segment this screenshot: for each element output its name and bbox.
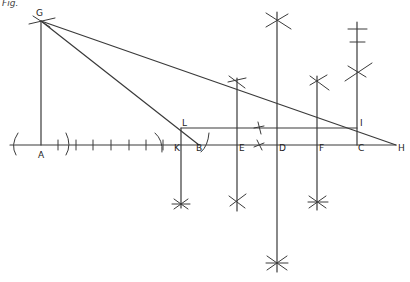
cross-mark-D-top (266, 13, 291, 29)
cross-mark-F-bottom (308, 196, 328, 208)
arc-right-of-A (66, 133, 69, 155)
label-C: C (358, 143, 364, 153)
arc-left-end (13, 133, 18, 155)
line-GH (41, 21, 396, 145)
label-G: G (36, 8, 43, 18)
label-F: F (319, 143, 324, 153)
label-I: I (360, 118, 363, 128)
label-H: H (398, 143, 405, 153)
arc-near-B (201, 133, 209, 152)
arc-near-K (155, 133, 162, 152)
cross-mark-F-top (310, 75, 329, 90)
label-A: A (38, 150, 45, 160)
geometric-construction-diagram: Fig. (0, 0, 410, 282)
figure-caption: Fig. (2, 0, 18, 8)
cross-mark-C-top (345, 29, 372, 81)
label-E: E (239, 143, 245, 153)
label-B: B (196, 143, 202, 153)
bisect-marks-ED (254, 122, 264, 150)
label-D: D (279, 143, 286, 153)
label-L: L (182, 118, 187, 128)
line-GB (41, 21, 199, 145)
